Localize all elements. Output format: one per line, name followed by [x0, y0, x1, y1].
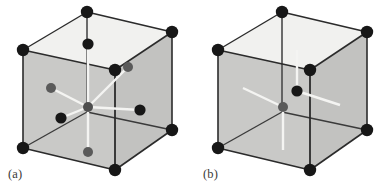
corner-atom-a-top-back-right [166, 26, 178, 38]
cube-diagram-a [0, 0, 196, 195]
atom-a-right [134, 104, 145, 115]
corner-atom-b-top-back-left [212, 44, 224, 56]
corner-atom-a-top-front-center [109, 64, 121, 76]
atom-a-left [46, 83, 56, 93]
atom-a-bottom [83, 147, 93, 157]
panel-b: (b) [195, 0, 391, 195]
cube-diagram-b [195, 0, 391, 195]
atom-a-front-left [55, 112, 66, 123]
caption-panel-a: (a) [8, 168, 22, 181]
caption-panel-b: (b) [203, 168, 218, 181]
corner-atom-b-top-front-center [304, 64, 316, 76]
corner-atom-b-bottom-back-right [361, 124, 373, 136]
corner-atom-b-top-back-right [361, 26, 373, 38]
corner-atom-b-top-back-top [276, 6, 288, 18]
atom-b-upper-right [291, 85, 302, 96]
atom-b-center [278, 102, 288, 112]
corner-atom-a-bottom-back-right [166, 124, 178, 136]
atom-a-top [82, 38, 93, 49]
corner-atom-b-bottom-front-center [304, 164, 316, 176]
corner-atom-b-bottom-front-left [212, 142, 224, 154]
panel-a: (a) [0, 0, 196, 195]
crystal-structure-figure: (a) [0, 0, 391, 195]
corner-atom-a-top-back-top [81, 6, 93, 18]
corner-atom-a-bottom-front-left [17, 142, 29, 154]
atom-a-back-right [123, 62, 133, 72]
corner-atom-a-top-back-left [17, 44, 29, 56]
atom-a-center [83, 102, 93, 112]
corner-atom-a-bottom-front-center [109, 164, 121, 176]
